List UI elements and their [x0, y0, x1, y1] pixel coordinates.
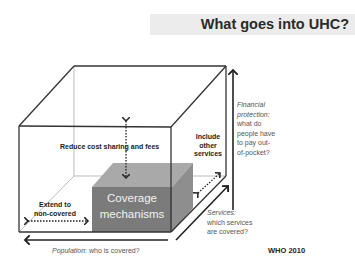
coverage-line1: Coverage — [92, 190, 172, 206]
extend-line1: Extend to — [24, 201, 86, 210]
services-line3: are covered? — [207, 227, 253, 237]
extend-line2: non-covered — [24, 210, 86, 219]
financial-protection-label: Financial protection: what do people hav… — [237, 100, 275, 157]
services-line2: which services — [207, 218, 253, 228]
extend-label: Extend to non-covered — [24, 201, 86, 218]
financial-line5: to pay out- — [237, 138, 275, 148]
source-citation: WHO 2010 — [268, 246, 305, 255]
financial-line2: protection: — [237, 110, 275, 120]
include-services-label: Include other services — [193, 133, 223, 159]
coverage-mechanisms-label: Coverage mechanisms — [92, 190, 172, 222]
uhc-cube-diagram — [0, 0, 355, 268]
coverage-line2: mechanisms — [92, 206, 172, 222]
population-label: Population: who is covered? — [52, 246, 140, 256]
population-rest: : who is covered? — [85, 247, 139, 254]
include-line1: Include — [193, 133, 223, 142]
reduce-cost-label: Reduce cost sharing and fees — [60, 143, 159, 152]
financial-line1: Financial — [237, 100, 275, 110]
include-line3: services — [193, 150, 223, 159]
population-italic: Population — [52, 247, 85, 254]
services-line1: Services: — [207, 208, 253, 218]
financial-line4: people have — [237, 129, 275, 139]
include-line2: other — [193, 142, 223, 151]
financial-line3: what do — [237, 119, 275, 129]
financial-line6: of-pocket? — [237, 148, 275, 158]
services-label: Services: which services are covered? — [207, 208, 253, 237]
